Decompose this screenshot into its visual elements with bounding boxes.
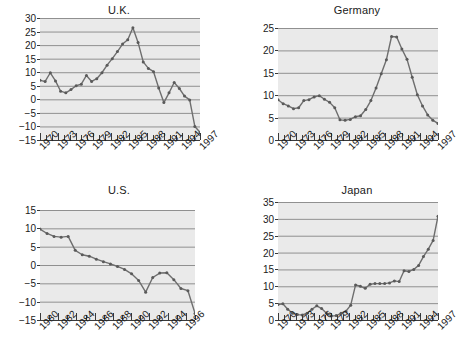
plot-area-japan [278,202,438,320]
data-point [354,115,357,118]
data-point [111,57,114,60]
data-line-japan [278,216,438,316]
data-point [349,304,352,307]
data-point [152,70,155,73]
x-tick-label: 1997 [197,128,221,152]
y-tick-label: 10 [25,67,36,78]
data-point [282,102,285,105]
data-point [126,38,129,41]
chart-figure: U.K. 302520151050−5−10−15197019731976197… [0,0,476,360]
y-tick-label: 5 [30,80,36,91]
data-point [432,239,435,242]
data-point [395,35,398,38]
data-point [147,67,150,70]
y-tick-label: −5 [25,107,36,118]
data-point [81,253,84,256]
data-point [398,280,401,283]
data-point [116,265,119,268]
data-point [90,80,93,83]
data-point [375,87,378,90]
data-point [313,95,316,98]
data-point [328,101,331,104]
panel-germany: Germany 25201510501970197319761979198219… [238,0,476,180]
data-point [137,41,140,44]
y-tick-mark [275,73,278,74]
data-point [378,282,381,285]
y-tick-mark [37,283,40,284]
data-line-uk [40,28,200,133]
series-canvas-germany [278,28,438,140]
data-point [116,50,119,53]
panel-japan: Japan 3530252015105019701973197619791982… [238,180,476,360]
data-point [338,118,341,121]
y-tick-label: 5 [268,298,274,309]
data-point [172,278,175,281]
data-point [64,91,67,94]
data-point [281,302,284,305]
y-tick-mark [37,45,40,46]
y-tick-label: 0 [30,260,36,271]
y-tick-label: 15 [25,53,36,64]
y-tick-label: −10 [19,296,36,307]
data-point [75,84,78,87]
y-tick-label: −10 [19,121,36,132]
y-tick-mark [275,253,278,254]
data-point [297,106,300,109]
data-point [173,81,176,84]
panel-title-japan: Japan [238,184,476,196]
y-tick-label: 30 [25,13,36,24]
data-point [427,248,430,251]
data-point [144,291,147,294]
y-tick-label: 20 [263,247,274,258]
data-point [333,106,336,109]
plot-area-uk [40,18,200,140]
y-tick-mark [37,265,40,266]
y-tick-label: 25 [25,26,36,37]
data-point [369,283,372,286]
plot-area-germany [278,28,438,140]
data-point [416,93,419,96]
data-point [344,119,347,122]
data-point [380,72,383,75]
data-point [393,279,396,282]
y-tick-mark [275,118,278,119]
data-point [54,79,57,82]
data-point [369,99,372,102]
y-tick-mark [37,99,40,100]
y-tick-mark [37,302,40,303]
y-tick-mark [37,72,40,73]
y-tick-label: 0 [268,315,274,326]
y-tick-label: 10 [263,90,274,101]
data-point [186,289,189,292]
data-point [53,235,56,238]
y-tick-mark [37,113,40,114]
data-point [421,104,424,107]
data-point [178,87,181,90]
data-point [287,104,290,107]
data-point [426,113,429,116]
y-tick-mark [275,219,278,220]
data-point [123,268,126,271]
data-point [121,43,124,46]
y-tick-mark [37,210,40,211]
data-point [403,269,406,272]
data-line-germany [278,37,438,124]
y-tick-label: 10 [25,223,36,234]
data-point [168,91,171,94]
panel-title-germany: Germany [238,4,476,16]
data-point [431,119,434,122]
data-line-us [40,229,195,313]
data-point [412,268,415,271]
plot-area-us [40,210,195,320]
y-tick-label: 20 [25,40,36,51]
panel-title-us: U.S. [0,184,238,196]
data-point [390,35,393,38]
data-point [400,48,403,51]
data-point [46,232,49,235]
data-point [406,58,409,61]
panel-us: U.S. 151050−5−10−15198019821984198619881… [0,180,238,360]
data-point [130,272,133,275]
data-point [407,270,410,273]
y-tick-mark [37,32,40,33]
y-tick-mark [275,303,278,304]
